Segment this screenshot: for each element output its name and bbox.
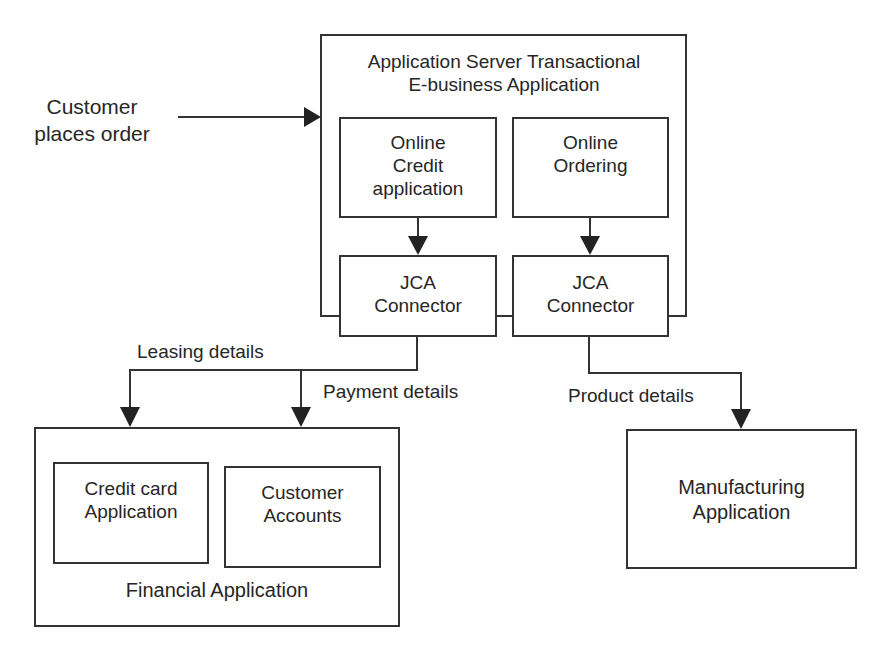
payment-details-label: Payment details (323, 380, 458, 403)
financial-application-box: Credit card Application Customer Account… (34, 427, 400, 627)
manufacturing-application-box: Manufacturing Application (626, 429, 857, 569)
arrow-head-icon (120, 407, 140, 427)
arrow-head-icon (731, 409, 751, 429)
product-details-label: Product details (568, 384, 694, 407)
jca-connector-right: JCA Connector (512, 255, 669, 337)
arrow-head-icon (304, 107, 321, 127)
arrow-head-icon (580, 236, 600, 255)
online-credit-application-box: Online Credit application (339, 117, 497, 218)
customer-accounts-box: Customer Accounts (224, 466, 381, 568)
arrow-head-icon (408, 236, 428, 255)
financial-application-title: Financial Application (36, 579, 398, 602)
leasing-details-label: Leasing details (137, 340, 264, 363)
credit-card-application-box: Credit card Application (53, 462, 209, 564)
customer-input-label: Customer places order (22, 93, 162, 147)
app-server-title: Application Server Transactional E-busin… (321, 50, 687, 96)
jca-connector-left: JCA Connector (339, 255, 497, 337)
arrow-head-icon (291, 407, 311, 427)
online-ordering-box: Online Ordering (512, 117, 669, 218)
